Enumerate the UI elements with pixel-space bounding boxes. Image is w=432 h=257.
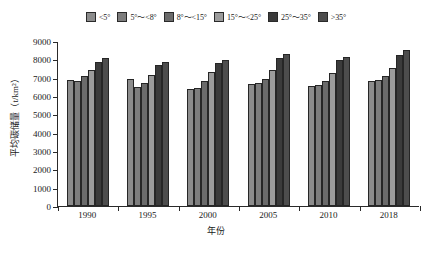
bar[interactable] — [403, 50, 410, 206]
bar[interactable] — [248, 84, 255, 206]
bar-group — [67, 42, 109, 206]
x-axis-label: 1995 — [117, 210, 177, 221]
bar[interactable] — [368, 81, 375, 206]
bar[interactable] — [201, 81, 208, 206]
x-axis-label: 2000 — [178, 210, 238, 221]
legend-entry[interactable]: 15°～<25° — [214, 12, 261, 22]
bar[interactable] — [194, 88, 201, 206]
bar[interactable] — [74, 81, 81, 206]
legend-label: 15°～<25° — [227, 13, 261, 22]
bar[interactable] — [95, 62, 102, 206]
bar[interactable] — [329, 73, 336, 206]
bar-group — [248, 42, 290, 206]
chart-figure: <5°5°～<8°8°～<15°15°～<25°25°～35°>35° 0100… — [0, 0, 432, 257]
legend-swatch-icon — [268, 12, 278, 22]
legend-label: >35° — [331, 13, 346, 22]
legend-swatch-icon — [214, 12, 224, 22]
bar[interactable] — [155, 65, 162, 206]
y-axis-title: 平均碳储量（t/km²） — [10, 41, 21, 191]
bar-group — [368, 42, 410, 206]
legend-label: 5°～<8° — [130, 13, 156, 22]
x-axis-label: 2010 — [298, 210, 358, 221]
bar[interactable] — [322, 81, 329, 206]
legend-entry[interactable]: <5° — [86, 12, 110, 22]
y-axis-tick-label: 2000 — [33, 165, 51, 176]
bar[interactable] — [102, 58, 109, 206]
bar[interactable] — [215, 63, 222, 206]
x-axis-label: 2018 — [359, 210, 419, 221]
bar[interactable] — [283, 54, 290, 206]
bar[interactable] — [134, 87, 141, 206]
bar[interactable] — [382, 76, 389, 206]
legend-label: 25°～35° — [281, 13, 311, 22]
bar[interactable] — [255, 83, 262, 206]
y-axis-tick-label: 9000 — [33, 37, 51, 48]
bar[interactable] — [276, 58, 283, 207]
bar-group — [127, 42, 169, 206]
legend-swatch-icon — [318, 12, 328, 22]
x-axis-title: 年份 — [0, 226, 432, 237]
bar[interactable] — [162, 62, 169, 206]
y-axis-tick-label: 3000 — [33, 147, 51, 158]
bar[interactable] — [141, 83, 148, 206]
bar[interactable] — [389, 68, 396, 206]
bar[interactable] — [208, 72, 215, 206]
y-axis-tick-label: 6000 — [33, 92, 51, 103]
legend-swatch-icon — [117, 12, 127, 22]
x-axis-labels: 199019952000200520102018 — [57, 210, 419, 221]
bar[interactable] — [262, 79, 269, 206]
bar[interactable] — [67, 80, 74, 207]
y-axis-tick-label: 4000 — [33, 129, 51, 140]
bar[interactable] — [88, 70, 95, 206]
legend-label: <5° — [99, 13, 110, 22]
chart-legend: <5°5°～<8°8°～<15°15°～<25°25°～35°>35° — [0, 12, 432, 22]
bar[interactable] — [343, 57, 350, 206]
bar[interactable] — [269, 70, 276, 206]
bar[interactable] — [336, 60, 343, 206]
legend-entry[interactable]: 5°～<8° — [117, 12, 156, 22]
bar[interactable] — [315, 85, 322, 206]
bar[interactable] — [396, 55, 403, 206]
bar-series-container — [58, 42, 419, 206]
bar-group — [308, 42, 350, 206]
y-axis-tick-label: 1000 — [33, 184, 51, 195]
bar[interactable] — [308, 86, 315, 206]
y-axis-tick-label: 8000 — [33, 55, 51, 66]
bar[interactable] — [375, 80, 382, 206]
bar[interactable] — [222, 60, 229, 206]
bar-group — [187, 42, 229, 206]
plot-area: 0100020003000400050006000700080009000 — [57, 42, 419, 207]
legend-swatch-icon — [164, 12, 174, 22]
legend-label: 8°～<15° — [177, 13, 207, 22]
x-axis-label: 2005 — [238, 210, 298, 221]
legend-swatch-icon — [86, 12, 96, 22]
legend-entry[interactable]: >35° — [318, 12, 346, 22]
bar[interactable] — [81, 76, 88, 206]
y-axis-tick-label: 5000 — [33, 110, 51, 121]
x-axis-tick — [420, 206, 421, 211]
x-axis-label: 1990 — [57, 210, 117, 221]
y-axis-tick-label: 7000 — [33, 74, 51, 85]
legend-entry[interactable]: 25°～35° — [268, 12, 311, 22]
bar[interactable] — [148, 75, 155, 206]
bar[interactable] — [127, 79, 134, 206]
y-axis-tick-label: 0 — [47, 202, 52, 213]
bar[interactable] — [187, 89, 194, 206]
legend-entry[interactable]: 8°～<15° — [164, 12, 207, 22]
